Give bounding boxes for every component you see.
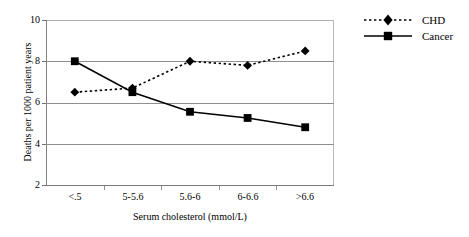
legend-label-cancer: Cancer [422,29,453,43]
data-point-chd-1 [128,84,137,93]
x-tick-label-1: 5-5.6 [103,191,163,203]
gridline-6 [46,103,334,104]
data-point-cancer-3 [244,114,252,122]
y-tick-label-8: 8 [18,56,40,66]
x-tick-label-4: >6.6 [275,191,335,203]
x-tick-label-3: 6-6.6 [218,191,278,203]
data-point-chd-4 [301,47,310,56]
legend-marker-square-icon [362,28,414,44]
x-tick-mark-3 [219,186,220,190]
chart-legend: CHD Cancer [362,12,466,44]
gridline-8 [46,61,334,62]
x-tick-label-2: 5.6-6 [160,191,220,203]
legend-label-chd: CHD [422,13,445,27]
legend-item-chd: CHD [362,12,466,28]
plot-axis-bottom [46,185,334,186]
series-line-chd [75,51,305,92]
y-tick-label-2: 2 [18,180,40,190]
x-tick-mark-4 [276,186,277,190]
plot-border-top [46,20,334,21]
data-point-chd-3 [243,61,252,70]
data-point-cancer-4 [301,123,309,131]
data-point-cancer-2 [186,108,194,116]
y-tick-label-10: 10 [18,15,40,25]
series-line-cancer [75,61,305,127]
legend-marker-diamond-icon [362,12,414,28]
data-point-cancer-1 [129,88,137,96]
legend-item-cancer: Cancer [362,28,466,44]
y-tick-label-4: 4 [18,139,40,149]
data-point-chd-0 [70,88,79,97]
x-axis-title: Serum cholesterol (mmol/L) [46,211,334,223]
gridline-4 [46,144,334,145]
x-tick-label-0: <.5 [45,191,105,203]
x-tick-mark-1 [104,186,105,190]
x-tick-mark-2 [161,186,162,190]
chart-container: Deaths per 1000 patient years 10 8 6 4 2… [0,0,469,237]
y-tick-label-6: 6 [18,97,40,107]
